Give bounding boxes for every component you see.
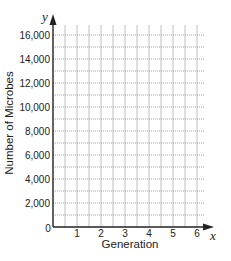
y-tick-label: 10,000: [19, 102, 50, 113]
y-tick-label: 12,000: [19, 78, 50, 89]
x-tick-label: 6: [194, 228, 200, 239]
x-tick-label: 5: [170, 228, 176, 239]
blank-graph: 2,0004,0006,0008,00010,00012,00014,00016…: [0, 0, 231, 261]
y-tick-label: 2,000: [25, 198, 50, 209]
y-tick-label: 14,000: [19, 54, 50, 65]
y-tick-label: 6,000: [25, 150, 50, 161]
axes: [50, 14, 215, 231]
y-tick-label: 8,000: [25, 126, 50, 137]
y-axis-title: Number of Microbes: [3, 71, 15, 175]
x-tick-label: 1: [74, 228, 80, 239]
y-tick-label: 16,000: [19, 30, 50, 41]
x-variable-label: x: [209, 228, 216, 243]
y-variable-label: y: [40, 9, 48, 24]
origin-label: 0: [45, 223, 51, 234]
y-axis-arrow-icon: [50, 14, 57, 25]
x-axis-title: Generation: [102, 238, 159, 250]
y-tick-label: 4,000: [25, 174, 50, 185]
y-tick-labels: 2,0004,0006,0008,00010,00012,00014,00016…: [19, 30, 50, 209]
grid: [53, 25, 205, 227]
